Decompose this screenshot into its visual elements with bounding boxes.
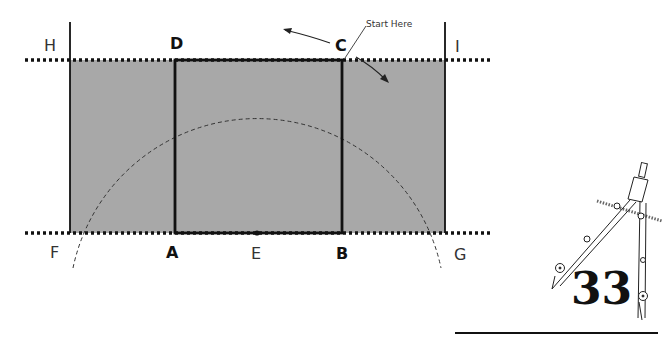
label-B: B	[336, 246, 348, 262]
construction-canvas	[0, 0, 665, 342]
label-G: G	[454, 247, 466, 263]
arrow-counterclockwise	[285, 30, 330, 43]
label-E: E	[251, 246, 261, 262]
label-C: C	[335, 38, 347, 54]
label-H: H	[44, 38, 56, 54]
golden-rectangle-fill	[70, 60, 445, 233]
start-here-note: Start Here	[366, 20, 412, 29]
label-F: F	[50, 245, 59, 261]
label-I: I	[455, 39, 460, 55]
arrow-counterclockwise-head	[283, 28, 292, 34]
page-number: 33	[571, 267, 632, 311]
start-here-pointer	[345, 26, 366, 58]
midpoint-E-dot	[254, 230, 259, 235]
label-A: A	[166, 245, 178, 261]
label-D: D	[170, 36, 183, 52]
